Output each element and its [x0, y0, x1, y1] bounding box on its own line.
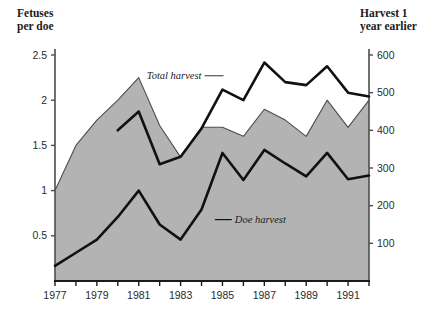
left-axis-title: Fetuses per doe	[17, 7, 54, 33]
y2-tick-label: 600	[377, 49, 395, 61]
y-tick-label: 1.5	[32, 139, 47, 151]
x-tick-label: 1983	[169, 289, 193, 301]
chart-plot-area: 0.511.522.510020030040050060019771979198…	[0, 0, 431, 316]
y2-tick-label: 300	[377, 162, 395, 174]
right-axis-title: Harvest 1 year earlier	[360, 7, 417, 33]
x-tick-label: 1979	[85, 289, 109, 301]
annotation-total-harvest: Total harvest	[147, 70, 203, 81]
x-tick-label: 1981	[127, 289, 151, 301]
y-tick-label: 2	[41, 94, 47, 106]
annotation-doe-harvest: Doe harvest	[234, 214, 287, 225]
chart-figure: Fetuses per doe Harvest 1 year earlier 0…	[0, 0, 431, 316]
y-tick-label: 2.5	[32, 49, 47, 61]
y2-tick-label: 200	[377, 199, 395, 211]
y2-tick-label: 500	[377, 86, 395, 98]
x-tick-label: 1977	[43, 289, 67, 301]
x-tick-label: 1987	[253, 289, 277, 301]
x-tick-label: 1985	[211, 289, 235, 301]
y2-tick-label: 400	[377, 124, 395, 136]
y-tick-label: 0.5	[32, 229, 47, 241]
x-tick-label: 1991	[336, 289, 360, 301]
x-tick-label: 1989	[295, 289, 319, 301]
y2-tick-label: 100	[377, 237, 395, 249]
y-tick-label: 1	[41, 184, 47, 196]
